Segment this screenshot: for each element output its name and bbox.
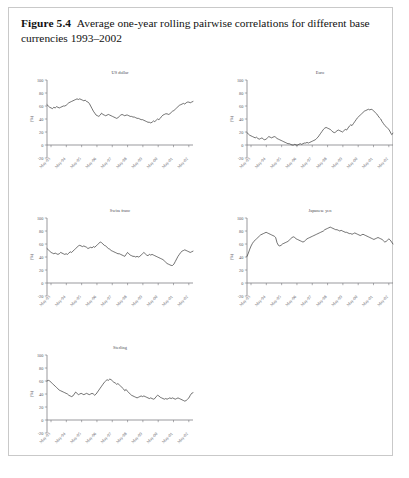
y-tick-label: 20 [39,405,43,410]
x-tick-label: May-96 [84,294,97,307]
y-tick-label: 100 [237,78,243,83]
y-tick-label: 80 [39,91,43,96]
y-tick-label: 20 [39,130,43,135]
chart-title: Japanese yen [308,208,332,213]
series-line [47,99,193,123]
y-axis-label: (%) [29,253,34,260]
x-tick-label: May-02 [176,156,189,169]
x-tick-label: May-99 [130,431,143,444]
x-tick-label: May-02 [376,156,389,169]
x-tick-label: May-94 [54,294,68,308]
x-tick-label: May-01 [161,431,174,444]
y-tick-label: 80 [39,366,43,371]
x-tick-label: May-94 [54,431,68,445]
chart-sterling: Sterling100806040200-20(%)May-93May-94Ma… [21,341,201,473]
y-tick-label: 20 [239,268,243,273]
x-tick-label: May-96 [284,156,297,169]
y-tick-label: 60 [239,104,243,109]
y-tick-label: -20 [238,294,244,299]
figure-number: Figure 5.4 [21,17,71,29]
x-tick-label: May-00 [145,156,158,169]
chart-svg: US dollar100806040200-20(%)May-93May-94M… [21,66,201,198]
x-tick-label: May-94 [254,156,268,170]
y-tick-label: 0 [41,281,43,286]
x-tick-label: May-99 [330,156,343,169]
chart-svg: Japanese yen100806040200-20(%)May-93May-… [221,204,401,336]
x-tick-label: May-98 [115,431,128,444]
y-axis-label: (%) [229,253,234,260]
chart-title: Sterling [113,345,128,350]
x-tick-label: May-98 [315,294,328,307]
y-tick-label: 40 [39,392,43,397]
x-tick-label: May-98 [115,294,128,307]
y-axis-label: (%) [29,390,34,397]
series-line [247,227,393,256]
chart-us-dollar: US dollar100806040200-20(%)May-93May-94M… [21,66,201,198]
x-tick-label: May-01 [361,294,374,307]
chart-svg: Sterling100806040200-20(%)May-93May-94Ma… [21,341,201,473]
y-tick-label: 40 [239,117,243,122]
x-tick-label: May-02 [376,294,389,307]
y-tick-label: -20 [38,156,44,161]
x-tick-label: May-97 [100,156,113,169]
x-tick-label: May-02 [176,431,189,444]
y-tick-label: 20 [39,268,43,273]
x-tick-label: May-96 [284,294,297,307]
y-axis-label: (%) [229,115,234,122]
x-tick-label: May-95 [69,431,82,444]
chart-title: US dollar [112,70,129,75]
x-tick-label: May-95 [269,294,282,307]
y-tick-label: 0 [41,143,43,148]
x-tick-label: May-94 [254,294,268,308]
figure-caption-text: Average one-year rolling pairwise correl… [21,17,370,44]
series-line [247,109,393,145]
x-tick-label: May-96 [84,156,97,169]
y-tick-label: 60 [39,242,43,247]
x-tick-label: May-99 [130,156,143,169]
chart-svg: Euro100806040200-20(%)May-93May-94May-95… [221,66,401,198]
y-tick-label: 100 [37,353,43,358]
figure-container: Figure 5.4 Average one-year rolling pair… [8,7,393,456]
x-tick-label: May-96 [84,431,97,444]
y-tick-label: -20 [38,431,44,436]
x-tick-label: May-98 [315,156,328,169]
y-tick-label: 80 [39,229,43,234]
x-tick-label: May-97 [300,294,313,307]
x-tick-label: May-95 [69,156,82,169]
x-tick-label: May-99 [130,294,143,307]
y-tick-label: -20 [238,156,244,161]
y-tick-label: 80 [239,91,243,96]
x-tick-label: May-99 [330,294,343,307]
x-tick-label: May-97 [100,431,113,444]
series-line [47,379,193,401]
y-tick-label: 40 [39,117,43,122]
chart-title: Euro [316,70,325,75]
y-tick-label: 100 [237,216,243,221]
y-tick-label: 20 [239,130,243,135]
x-tick-label: May-01 [161,156,174,169]
chart-title: Swiss franc [110,208,130,213]
x-tick-label: May-01 [161,294,174,307]
x-tick-label: May-98 [115,156,128,169]
x-tick-label: May-97 [100,294,113,307]
x-tick-label: May-95 [69,294,82,307]
y-tick-label: 40 [239,255,243,260]
x-tick-label: May-00 [345,156,358,169]
x-tick-label: May-02 [176,294,189,307]
x-tick-label: May-95 [269,156,282,169]
y-tick-label: 100 [37,216,43,221]
x-tick-label: May-97 [300,156,313,169]
y-tick-label: 100 [37,78,43,83]
x-tick-label: May-00 [145,294,158,307]
figure-caption: Figure 5.4 Average one-year rolling pair… [21,16,379,45]
chart-euro: Euro100806040200-20(%)May-93May-94May-95… [221,66,401,198]
y-tick-label: 60 [39,379,43,384]
x-tick-label: May-01 [361,156,374,169]
y-tick-label: 60 [239,242,243,247]
chart-swiss-franc: Swiss franc100806040200-20(%)May-93May-9… [21,204,201,336]
y-tick-label: 0 [241,281,243,286]
x-tick-label: May-94 [54,156,68,170]
series-line [47,242,193,265]
y-tick-label: 0 [241,143,243,148]
y-tick-label: 40 [39,255,43,260]
